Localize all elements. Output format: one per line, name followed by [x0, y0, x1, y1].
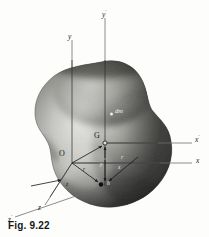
point-label-origin: O	[59, 150, 65, 158]
figure-caption: Fig. 9.22	[8, 220, 50, 231]
mass-element-marker	[110, 113, 113, 116]
vector-label-x: x	[118, 165, 120, 171]
rigid-body-blob	[30, 34, 208, 237]
vector-label-h: h	[107, 181, 110, 187]
vector-label-r: r	[83, 167, 85, 173]
vector-label-z-mid: z	[66, 182, 68, 188]
figure-illustration	[0, 0, 209, 237]
axis-label-x: x	[196, 156, 199, 164]
axis-label-x-prime: x′	[195, 135, 199, 143]
point-label-centroid: G	[94, 132, 100, 140]
axis-label-y: y	[68, 32, 71, 40]
vector-pointer-to-body	[31, 180, 61, 186]
figure-root: y′ y x′ x z z′ O G dm r y x r z h Fig. 9…	[0, 0, 209, 237]
vector-label-r-prime: r	[121, 155, 123, 161]
point-label-mass-element: dm	[115, 108, 123, 115]
element-point-marker	[99, 182, 103, 186]
axis-label-z: z	[38, 203, 41, 211]
vector-label-y: y	[100, 162, 102, 168]
axis-label-y-prime: y′	[102, 10, 106, 18]
centroid-marker	[103, 141, 107, 145]
